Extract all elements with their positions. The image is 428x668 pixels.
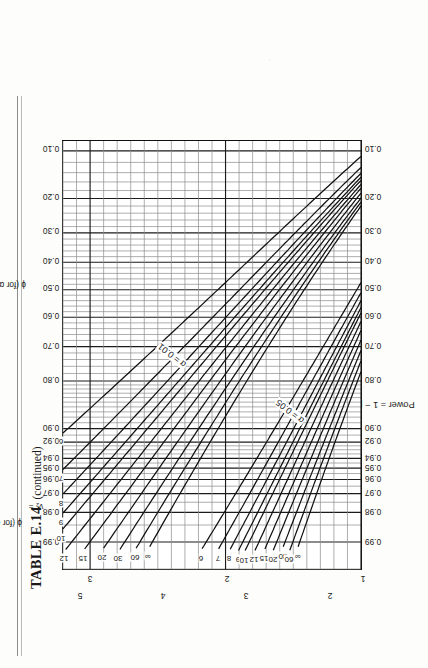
power-tick-label: 0.95 (365, 463, 382, 473)
power-tick-label: 0.98 (43, 507, 60, 517)
phi-alpha-05-text: ϕ (for α = 0.05) (0, 280, 26, 290)
curve-end-label: 10 (239, 555, 249, 564)
power-axis-caption: Power = 1 − β (357, 400, 414, 410)
curve-end-label: 7 (215, 553, 220, 562)
power-tick-label: 0.98 (365, 507, 382, 517)
phi-tick-label-alpha-01: 2 (224, 574, 229, 584)
curve-end-label: 20 (97, 553, 107, 562)
power-tick-label: 0.90 (43, 423, 60, 433)
curve-end-label: 60 (284, 555, 294, 564)
phi-alpha-01-text: ϕ (for α = 0.01) (0, 518, 22, 528)
power-tick-label: 0.50 (43, 283, 60, 293)
power-tick-label: 0.92 (365, 437, 382, 447)
curve-end-label: ∞ (294, 551, 301, 560)
power-tick-label: 0.92 (43, 437, 60, 447)
curve-end-label: 60 (130, 553, 140, 562)
curve-end-label: 20 (268, 555, 278, 564)
phi-tick-label-alpha-05: 5 (77, 591, 82, 601)
curve-end-label: 8 (58, 498, 63, 507)
power-curve (255, 322, 361, 551)
power-tick-label: 0.96 (365, 474, 382, 484)
power-curves-svg (63, 141, 361, 569)
power-tick-label: 0.10 (365, 144, 382, 154)
power-tick-label: 0.97 (365, 488, 382, 498)
curve-end-label: 9 (58, 517, 63, 526)
power-tick-label: 0.70 (365, 341, 382, 351)
phi-tick-label-alpha-01: 1 (361, 574, 366, 584)
power-tick-label: 0.20 (365, 192, 382, 202)
power-tick-label: 0.80 (365, 375, 382, 385)
power-tick-label: 0.40 (43, 256, 60, 266)
curve-end-label: 12 (59, 554, 69, 563)
curve-end-label: 7 (58, 474, 63, 483)
curve-end-label: 10 (56, 533, 66, 542)
power-tick-label: 0.97 (43, 488, 60, 498)
curve-end-label: 15 (78, 553, 88, 562)
power-tick-label: 0.60 (43, 311, 60, 321)
power-tick-label: 0.80 (43, 375, 60, 385)
phi-tick-label-alpha-01: 3 (88, 574, 93, 584)
curve-end-label: 6 (198, 553, 203, 562)
curve-end-label: 12 (249, 555, 259, 564)
power-tick-label: 0.40 (365, 256, 382, 266)
power-tick-label: 0.60 (365, 311, 382, 321)
phi-tick-label-alpha-05: 3 (244, 591, 249, 601)
power-tick-label: 0.99 (365, 537, 382, 547)
power-tick-label: 0.30 (365, 226, 382, 236)
power-tick-label: 0.30 (43, 226, 60, 236)
curve-end-label: 8 (227, 554, 232, 563)
scanned-page: TABLE E.14(continued) Power = 1 − β ν₁ =… (0, 0, 428, 668)
power-tick-label: 0.94 (365, 453, 382, 463)
power-tick-label: 0.95 (43, 463, 60, 473)
power-curve (104, 193, 361, 548)
curve-end-label: ∞ (145, 551, 152, 560)
plot-area: 0.990.980.970.960.950.940.920.900.800.70… (62, 140, 362, 570)
phi-tick-label-alpha-05: 4 (161, 591, 166, 601)
phi-alpha-01-caption: ϕ (for α = 0.01) ——→ (0, 518, 22, 528)
power-tick-label: 0.90 (365, 423, 382, 433)
power-tick-label: 0.20 (43, 192, 60, 202)
phi-tick-label-alpha-05: 2 (327, 591, 332, 601)
horizontal-gridlines (63, 141, 361, 569)
nu2-caption-inline: ν₂ = (29, 502, 44, 512)
power-tick-label: 0.94 (43, 453, 60, 463)
curve-end-label: 30 (113, 554, 123, 563)
page-binding-rule (17, 96, 23, 656)
power-tick-label: 0.70 (43, 341, 60, 351)
power-tick-label: 0.10 (43, 144, 60, 154)
curve-end-label: 6 (58, 437, 63, 446)
power-tick-label: 0.96 (43, 474, 60, 484)
phi-alpha-05-caption: ϕ (for α = 0.05) ——→ (0, 280, 26, 290)
binding-rule-inner (21, 96, 22, 656)
binding-rule-outer (17, 96, 18, 656)
power-tick-label: 0.50 (365, 283, 382, 293)
power-curve (298, 372, 361, 547)
power-curve-chart: Power = 1 − β ν₁ = 3 ϕ (for α = 0.05) ——… (36, 56, 388, 656)
